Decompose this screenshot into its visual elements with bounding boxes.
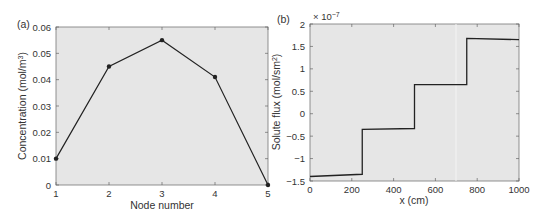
y-axis-label-b: Solute flux (mol/sm2) [270,54,282,151]
x-tick-label: 2 [106,188,111,199]
y-axis-label-a: Concentration (mol/m3) [16,52,28,160]
panel-b-label: (b) [277,13,290,25]
y-tick-label: −0.5 [286,131,305,142]
y-tick-label: 0 [46,180,51,191]
data-point-marker [160,38,164,42]
y-tick-label: 1 [300,63,305,74]
plot-area-a [56,27,268,185]
y-tick-label: 0.06 [33,22,52,33]
panel-a-concentration-chart: 00.010.020.030.040.050.06 12345 (a) Node… [16,18,271,211]
x-tick-label: 0 [307,184,312,195]
x-tick-label: 800 [469,184,485,195]
y-tick-label: 0.04 [33,74,52,85]
y-tick-label: 0.5 [292,86,305,97]
y-tick-label: 1.5 [292,41,305,52]
data-point-marker [266,183,270,187]
x-axis-label-b: x (cm) [399,194,428,206]
y-tick-label: 2 [300,19,305,30]
panel-b-solute-flux-chart: −1.5−1−0.500.511.52 02004006008001000 (b… [270,11,530,207]
y-tick-label: 0.05 [33,48,52,59]
x-axis-label-a: Node number [130,199,194,211]
y-tick-label: −1 [294,153,305,164]
data-point-marker [213,75,217,79]
data-point-marker [54,156,58,160]
x-tick-label: 5 [265,188,270,199]
y-tick-label: 0 [300,108,305,119]
x-tick-label: 4 [212,188,217,199]
y-multiplier: × 10−7 [313,11,340,23]
x-tick-label: 3 [159,188,164,199]
panel-a-label: (a) [17,18,30,30]
y-tick-label: 0.03 [33,101,52,112]
x-tick-label: 1 [53,188,58,199]
x-tick-label: 200 [344,184,360,195]
y-tick-label: −1.5 [286,176,305,187]
data-point-marker [107,64,111,68]
y-tick-label: 0.02 [33,127,52,138]
y-tick-label: 0.01 [33,153,52,164]
figure: 00.010.020.030.040.050.06 12345 (a) Node… [0,0,547,216]
x-tick-label: 1000 [508,184,529,195]
x-tick-label: 600 [427,184,443,195]
